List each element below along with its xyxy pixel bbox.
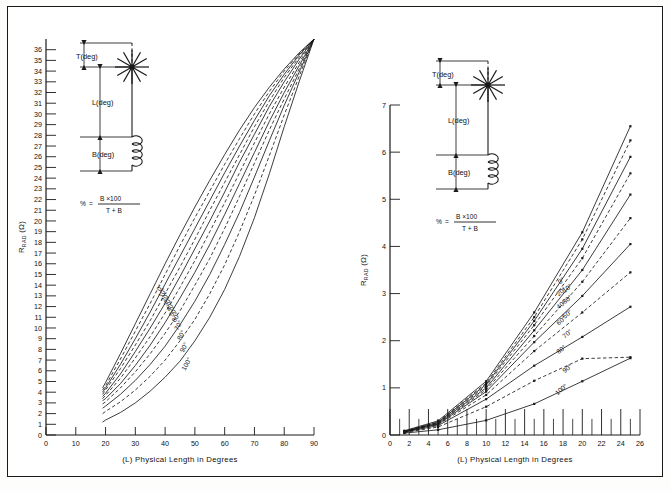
data-point xyxy=(403,432,405,434)
curve-label-100deg: 100° xyxy=(554,382,569,396)
data-point xyxy=(581,248,583,250)
y-tick-label: 28 xyxy=(34,131,42,140)
y-tick-label: 32 xyxy=(34,88,42,97)
data-point xyxy=(533,311,535,313)
y-tick-label: 6 xyxy=(382,148,386,157)
dim-arrow xyxy=(81,40,86,45)
x-tick-label: 60 xyxy=(221,439,229,448)
formula-numerator: B ×100 xyxy=(456,213,477,220)
y-tick-label: 1 xyxy=(38,420,42,429)
data-point xyxy=(485,394,487,396)
data-point xyxy=(581,269,583,271)
data-point xyxy=(437,429,439,431)
y-tick-label: 15 xyxy=(34,270,42,279)
dim-arrow xyxy=(97,169,102,174)
y-tick-label: 7 xyxy=(38,356,42,365)
y-tick-label: 3 xyxy=(382,289,386,298)
x-tick-label: 0 xyxy=(388,439,392,448)
y-tick-label: 2 xyxy=(38,409,42,418)
x-tick-label: 30 xyxy=(131,439,139,448)
data-point xyxy=(629,217,631,219)
y-tick-label: 6 xyxy=(38,366,42,375)
data-point xyxy=(533,320,535,322)
y-tick-label: 36 xyxy=(34,45,42,54)
y-tick-label: 23 xyxy=(34,184,42,193)
x-tick-label: 24 xyxy=(617,439,625,448)
data-point xyxy=(437,426,439,428)
curve-20deg xyxy=(404,157,630,431)
curve-80deg xyxy=(404,307,630,432)
y-tick-label: 29 xyxy=(34,120,42,129)
dim-arrow xyxy=(437,58,442,63)
y-tick-label: 31 xyxy=(34,99,42,108)
diagram-label-L: L(deg) xyxy=(92,98,113,107)
data-point xyxy=(485,419,487,421)
curve-60deg xyxy=(103,39,314,401)
data-point xyxy=(629,306,631,308)
data-point xyxy=(581,281,583,283)
data-point xyxy=(581,380,583,382)
x-tick-label: 4 xyxy=(426,439,430,448)
curve-label-text: 100° xyxy=(554,382,569,396)
diagram-label-L: L(deg) xyxy=(448,116,469,125)
x-tick-label: 12 xyxy=(501,439,509,448)
y-tick-label: 0 xyxy=(38,431,42,440)
y-tick-label: 4 xyxy=(38,388,42,397)
diagram-label-B: B(deg) xyxy=(448,168,470,177)
curve-40deg xyxy=(103,39,314,396)
x-tick-label: 20 xyxy=(102,439,110,448)
y-tick-label: 25 xyxy=(34,163,42,172)
dim-arrow xyxy=(453,187,458,192)
y-axis-label-text: RRAD (Ω) xyxy=(17,221,27,253)
formula-numerator: B ×100 xyxy=(100,195,121,202)
data-point xyxy=(629,125,631,127)
diagram-label-T: T(deg) xyxy=(76,52,98,61)
x-tick-label: 6 xyxy=(446,439,450,448)
data-point xyxy=(581,336,583,338)
data-point xyxy=(485,406,487,408)
formula-denominator: T + B xyxy=(106,207,122,214)
data-point xyxy=(581,231,583,233)
y-tick-label: 9 xyxy=(38,334,42,343)
curve-label-text: 80° xyxy=(555,343,567,355)
formula-percent: % xyxy=(436,218,442,225)
x-tick-label: 90 xyxy=(310,439,318,448)
y-tick-label: 20 xyxy=(34,217,42,226)
data-point xyxy=(629,271,631,273)
figure-container: 0123456789101112131415161718192021222324… xyxy=(0,0,670,491)
y-tick-label: 35 xyxy=(34,56,42,65)
curve-label-70deg: 70° xyxy=(561,327,573,339)
y-tick-label: 24 xyxy=(34,174,42,183)
y-tick-label: 11 xyxy=(35,313,42,322)
x-tick-label: 50 xyxy=(191,439,199,448)
x-tick-label: 2 xyxy=(407,439,411,448)
y-tick-label: 33 xyxy=(34,77,42,86)
y-axis-label: RRAD (Ω) xyxy=(17,221,27,253)
formula-equals: = xyxy=(89,200,93,207)
y-tick-label: 30 xyxy=(34,110,42,119)
data-point xyxy=(485,398,487,400)
dim-arrow xyxy=(453,82,458,87)
y-tick-label: 0 xyxy=(382,431,386,440)
antenna-diagram: T(deg)L(deg)B(deg)%=B ×100T + B xyxy=(432,58,505,232)
x-tick-label: 10 xyxy=(482,439,490,448)
dim-arrow xyxy=(437,83,442,88)
data-point xyxy=(581,257,583,259)
y-tick-label: 19 xyxy=(34,227,42,236)
formula-percent: % xyxy=(80,200,86,207)
y-tick-label: 27 xyxy=(34,142,42,151)
diagram-label-B: B(deg) xyxy=(92,150,114,159)
x-tick-label: 8 xyxy=(465,439,469,448)
curve-50deg xyxy=(103,39,314,399)
y-tick-label: 5 xyxy=(382,195,386,204)
data-point xyxy=(581,358,583,360)
data-point xyxy=(485,380,487,382)
x-tick-label: 0 xyxy=(44,439,48,448)
y-tick-label: 18 xyxy=(34,238,42,247)
y-tick-label: 5 xyxy=(38,377,42,386)
data-point xyxy=(629,243,631,245)
chart-panel-left: 0123456789101112131415161718192021222324… xyxy=(8,7,338,478)
data-point xyxy=(533,341,535,343)
y-tick-label: 26 xyxy=(34,152,42,161)
y-tick-label: 3 xyxy=(38,398,42,407)
